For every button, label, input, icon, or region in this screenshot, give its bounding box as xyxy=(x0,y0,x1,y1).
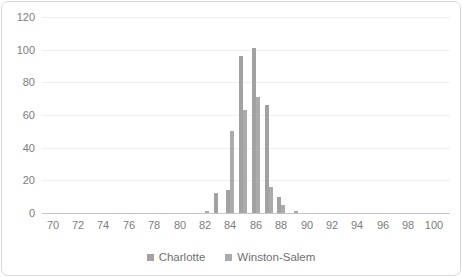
bar-charlotte-83 xyxy=(214,193,218,213)
y-tick-label-20: 20 xyxy=(2,174,35,187)
x-tick-label-74: 74 xyxy=(89,219,117,232)
legend: CharlotteWinston-Salem xyxy=(2,248,460,266)
x-tick-label-100: 100 xyxy=(420,219,448,232)
legend-label: Charlotte xyxy=(159,251,206,263)
y-gridline-80 xyxy=(42,82,450,83)
y-gridline-120 xyxy=(42,17,450,18)
x-tick-label-76: 76 xyxy=(115,219,143,232)
legend-item-winston-salem: Winston-Salem xyxy=(225,251,315,263)
y-tick-label-120: 120 xyxy=(2,11,35,24)
x-tick-label-92: 92 xyxy=(318,219,346,232)
plot-area: 0204060801001207072747678808284868890929… xyxy=(2,2,460,275)
bar-winston-salem-89 xyxy=(294,211,298,213)
legend-item-charlotte: Charlotte xyxy=(147,251,206,263)
x-tick-label-94: 94 xyxy=(343,219,371,232)
y-tick-label-60: 60 xyxy=(2,109,35,122)
x-tick-label-78: 78 xyxy=(140,219,168,232)
legend-swatch-icon xyxy=(147,254,154,261)
x-tick-label-72: 72 xyxy=(64,219,92,232)
bar-winston-salem-87 xyxy=(269,187,273,213)
legend-label: Winston-Salem xyxy=(237,251,315,263)
bar-winston-salem-88 xyxy=(281,205,285,213)
y-tick-label-80: 80 xyxy=(2,76,35,89)
x-tick-label-96: 96 xyxy=(369,219,397,232)
bar-winston-salem-85 xyxy=(243,110,247,213)
chart: 0204060801001207072747678808284868890929… xyxy=(1,1,461,276)
y-tick-label-40: 40 xyxy=(2,142,35,155)
x-tick-label-98: 98 xyxy=(394,219,422,232)
y-tick-label-0: 0 xyxy=(2,207,35,220)
y-gridline-100 xyxy=(42,50,450,51)
x-tick-label-88: 88 xyxy=(267,219,295,232)
x-tick-label-70: 70 xyxy=(39,219,67,232)
bar-winston-salem-86 xyxy=(256,97,260,213)
bar-winston-salem-82 xyxy=(205,211,209,213)
bar-winston-salem-84 xyxy=(230,131,234,213)
x-tick-label-80: 80 xyxy=(166,219,194,232)
y-tick-label-100: 100 xyxy=(2,44,35,57)
x-tick-label-86: 86 xyxy=(242,219,270,232)
legend-swatch-icon xyxy=(225,254,232,261)
x-tick-label-84: 84 xyxy=(216,219,244,232)
x-tick-label-82: 82 xyxy=(191,219,219,232)
x-axis-line xyxy=(42,213,450,214)
x-tick-label-90: 90 xyxy=(293,219,321,232)
